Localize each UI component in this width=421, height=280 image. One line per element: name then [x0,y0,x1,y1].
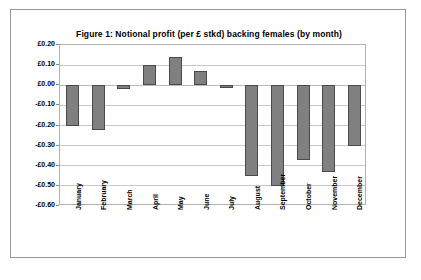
x-axis-label-april: April [152,194,159,210]
x-axis-label-may: May [177,196,184,210]
bar-march [117,85,130,89]
x-axis-label-july: July [228,196,235,210]
y-axis-tick-label: -£0.20 [11,121,55,128]
bar-september [271,85,284,186]
y-axis-tick-mark [56,205,59,206]
bar-april [143,65,156,85]
x-axis-label-january: January [75,183,82,210]
y-axis-tick-label: -£0.50 [11,181,55,188]
bar-august [245,85,258,176]
chart-title: Figure 1: Notional profit (per £ stkd) b… [11,29,407,39]
x-axis-label-march: March [126,189,133,210]
y-axis-tick-label: -£0.60 [11,201,55,208]
y-axis-tick-label: £0.00 [11,80,55,87]
x-axis-label-december: December [356,176,363,210]
bar-october [297,85,310,159]
x-axis-label-september: September [279,174,286,210]
x-axis-label-february: February [100,180,107,210]
x-axis-label-june: June [203,194,210,210]
gridline [60,165,365,166]
bar-may [169,57,182,85]
y-axis-tick-label: -£0.30 [11,141,55,148]
bar-december [348,85,361,145]
x-axis-label-october: October [305,183,312,210]
bar-july [220,85,233,88]
y-axis-tick-label: £0.20 [11,40,55,47]
figure-frame: Figure 1: Notional profit (per £ stkd) b… [10,9,406,258]
y-axis-tick-label: -£0.10 [11,100,55,107]
gridline [60,105,365,106]
bar-november [322,85,335,172]
gridline [60,85,365,86]
bar-february [92,85,105,129]
gridline [60,65,365,66]
y-axis-tick-label: -£0.40 [11,161,55,168]
gridline [60,125,365,126]
x-axis-label-august: August [254,186,261,210]
bar-january [66,85,79,125]
gridline [60,145,365,146]
y-axis-tick-label: £0.10 [11,60,55,67]
bar-june [194,71,207,85]
x-axis-label-november: November [331,176,338,210]
